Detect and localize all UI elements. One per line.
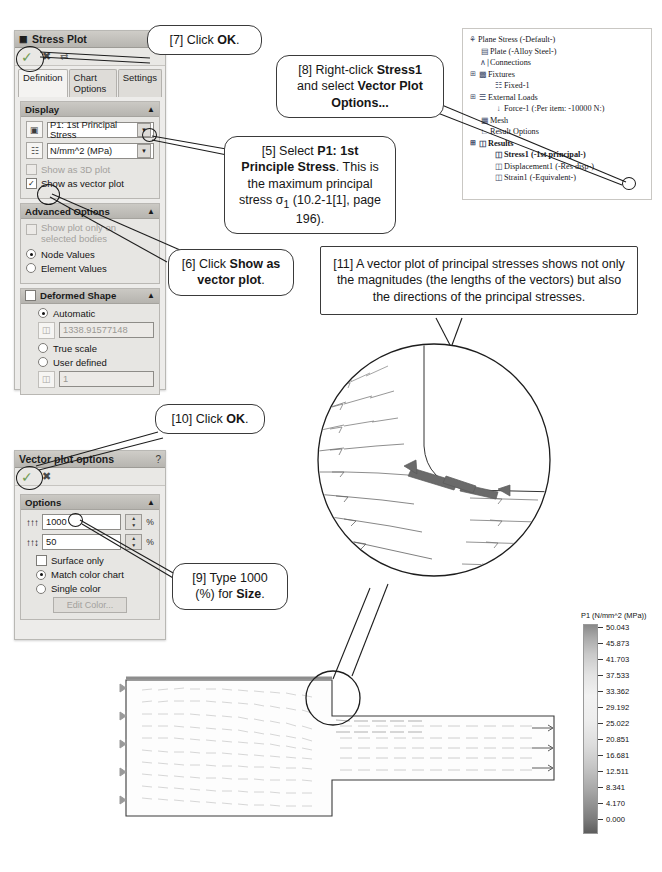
tree-node[interactable]: ☷ Fixed-1 bbox=[467, 80, 647, 92]
radio-dot[interactable] bbox=[36, 584, 46, 594]
user-defined-label: User defined bbox=[53, 357, 107, 368]
fixture-symbols bbox=[120, 683, 126, 804]
tree-node[interactable]: ⚘ Plane Stress (-Default-) bbox=[467, 34, 647, 46]
automatic-radio[interactable]: Automatic bbox=[26, 308, 154, 319]
match-color-chart-radio[interactable]: Match color chart bbox=[26, 569, 154, 580]
advanced-options-title: Advanced Options bbox=[25, 206, 110, 217]
plot-icon: ◫ bbox=[493, 162, 504, 171]
user-defined-scale-field[interactable]: 1 bbox=[59, 371, 154, 387]
tree-node-stress1[interactable]: ◫ Stress1 (-1st principal-) bbox=[467, 149, 647, 161]
vector-density-unit: % bbox=[146, 537, 154, 547]
radio-dot[interactable] bbox=[26, 263, 36, 273]
help-icon[interactable]: ? bbox=[155, 454, 161, 465]
chevron-up-icon[interactable]: ▲ bbox=[147, 207, 155, 216]
vector-checkbox-marker bbox=[37, 184, 60, 205]
node-values-label: Node Values bbox=[41, 249, 95, 260]
legend-tick: 50.043 bbox=[598, 619, 629, 635]
callout-5-text: [5] Select P1: 1st Principle Stress. Thi… bbox=[239, 144, 381, 226]
mesh-icon: ▦ bbox=[479, 116, 490, 125]
vector-density-row[interactable]: ↑↑↕ 50 ▲▼ % bbox=[26, 534, 154, 550]
user-defined-radio[interactable]: User defined bbox=[26, 357, 154, 368]
checkbox-box bbox=[26, 224, 37, 235]
component-row[interactable]: ▣ P1: 1st Principal Stress ▼ bbox=[26, 121, 154, 138]
vector-panel-title-bar: Vector plot options ? bbox=[15, 451, 165, 468]
radio-dot[interactable] bbox=[36, 570, 46, 580]
stress-plot-tabs[interactable]: Definition Chart Options Settings bbox=[15, 66, 165, 97]
component-select-marker bbox=[142, 128, 157, 142]
display-group-title: Display bbox=[25, 104, 59, 115]
stress-color-legend: P1 (N/mm^2 (MPa)) 50.043 45.873 41.703 3… bbox=[583, 611, 646, 834]
expander-icon[interactable]: ⊞ bbox=[469, 93, 477, 101]
chevron-down-icon[interactable]: ▼ bbox=[137, 144, 151, 158]
tree-node-displacement1[interactable]: ◫ Displacement1 (-Res disp-) bbox=[467, 161, 647, 173]
tree-node-results[interactable]: ⊞ ◫ Results bbox=[467, 138, 647, 150]
tree-node[interactable]: ∟ Result Options bbox=[467, 126, 647, 138]
vector-density-stepper[interactable]: ▲▼ bbox=[125, 534, 142, 550]
vector-plot-detail-circle bbox=[310, 336, 560, 576]
display-group-header[interactable]: Display ▲ bbox=[21, 102, 159, 117]
expander-icon[interactable]: ⊞ bbox=[469, 139, 477, 147]
expander-icon[interactable]: ⊞ bbox=[469, 70, 477, 78]
chevron-up-icon[interactable]: ▲ bbox=[147, 291, 155, 300]
legend-color-bar bbox=[583, 624, 598, 834]
tree-node-label: Force-1 (:Per item: -10000 N:) bbox=[504, 104, 605, 113]
tree-node-strain1[interactable]: ◫ Strain1 (-Equivalent-) bbox=[467, 172, 647, 184]
element-values-radio[interactable]: Element Values bbox=[26, 263, 154, 274]
true-scale-radio[interactable]: True scale bbox=[26, 343, 154, 354]
chevron-up-icon[interactable]: ▲ bbox=[147, 105, 155, 114]
surface-only-label: Surface only bbox=[51, 555, 104, 566]
component-select[interactable]: P1: 1st Principal Stress ▼ bbox=[47, 122, 154, 138]
tab-settings[interactable]: Settings bbox=[118, 69, 162, 97]
vector-size-row[interactable]: ↑↑↑ 1000 ▲▼ % bbox=[26, 514, 154, 530]
chevron-up-icon[interactable]: ▲ bbox=[147, 498, 155, 507]
tree-node[interactable]: ⊞ ☰ External Loads bbox=[467, 92, 647, 104]
tab-definition[interactable]: Definition bbox=[18, 69, 68, 97]
pin-button[interactable]: ⇄ bbox=[60, 52, 68, 62]
callout-11-text: [11] A vector plot of principal stresses… bbox=[333, 257, 625, 304]
tree-node[interactable]: ∧∣ Connections bbox=[467, 57, 647, 69]
tree-node[interactable]: ↓ Force-1 (:Per item: -10000 N:) bbox=[467, 103, 647, 115]
checkbox-box[interactable]: ✓ bbox=[26, 178, 37, 189]
vector-options-header[interactable]: Options ▲ bbox=[21, 495, 159, 510]
vector-size-icon: ↑↑↑ bbox=[26, 517, 38, 528]
vector-options-group: Options ▲ ↑↑↑ 1000 ▲▼ % ↑↑↕ 50 ▲▼ % bbox=[20, 494, 160, 620]
advanced-options-header[interactable]: Advanced Options ▲ bbox=[21, 204, 159, 219]
plate-vector-plot bbox=[110, 676, 560, 826]
node-values-radio[interactable]: Node Values bbox=[26, 249, 154, 260]
callout-7-text: [7] Click OK. bbox=[169, 33, 239, 47]
show-3d-plot-checkbox: Show as 3D plot bbox=[26, 164, 154, 175]
force-icon: ↓ bbox=[493, 104, 504, 113]
units-select[interactable]: N/mm^2 (MPa) ▼ bbox=[47, 143, 154, 159]
tree-node[interactable]: ▦ Mesh bbox=[467, 115, 647, 127]
deformed-shape-header[interactable]: Deformed Shape ▲ bbox=[21, 289, 159, 304]
callout-8: [8] Right-click Stress1 and select Vecto… bbox=[276, 55, 444, 118]
vector-density-field[interactable]: 50 bbox=[42, 534, 121, 550]
radio-dot[interactable] bbox=[38, 357, 48, 367]
tree-node-label: Strain1 (-Equivalent-) bbox=[504, 173, 576, 182]
component-icon: ▣ bbox=[26, 121, 43, 138]
stress-plot-icon: ▦ bbox=[19, 34, 28, 44]
radio-dot[interactable] bbox=[38, 343, 48, 353]
single-color-radio[interactable]: Single color bbox=[26, 583, 154, 594]
deformed-shape-checkbox[interactable] bbox=[25, 290, 36, 301]
surface-only-checkbox[interactable]: Surface only bbox=[26, 555, 154, 566]
vector-size-stepper[interactable]: ▲▼ bbox=[125, 514, 142, 530]
tab-chart-options[interactable]: Chart Options bbox=[69, 69, 117, 97]
radio-dot[interactable] bbox=[38, 308, 48, 318]
units-row[interactable]: ☷ N/mm^2 (MPa) ▼ bbox=[26, 142, 154, 159]
simulation-feature-tree[interactable]: ⚘ Plane Stress (-Default-) ▤ Plate (-All… bbox=[462, 28, 652, 200]
cancel-button[interactable]: ✖ bbox=[42, 471, 51, 482]
tree-node-label: External Loads bbox=[488, 93, 538, 102]
user-defined-value-row[interactable]: ◫ 1 bbox=[26, 371, 154, 388]
loads-icon: ☰ bbox=[477, 93, 488, 102]
stress-plot-panel[interactable]: ▦ Stress Plot ✓ ✖ ⇄ Definition Chart Opt… bbox=[14, 30, 166, 390]
tree-node[interactable]: ⊞ ▩ Fixtures bbox=[467, 69, 647, 81]
element-values-label: Element Values bbox=[41, 263, 107, 274]
checkbox-box[interactable] bbox=[36, 555, 47, 566]
plot-icon: ◫ bbox=[493, 173, 504, 182]
tree-node-label: Displacement1 (-Res disp-) bbox=[504, 162, 594, 171]
tree-node[interactable]: ▤ Plate (-Alloy Steel-) bbox=[467, 46, 647, 58]
tree-node-label: Fixed-1 bbox=[504, 81, 529, 90]
radio-dot[interactable] bbox=[26, 249, 36, 259]
automatic-scale-field: 1338.91577148 bbox=[59, 322, 154, 338]
